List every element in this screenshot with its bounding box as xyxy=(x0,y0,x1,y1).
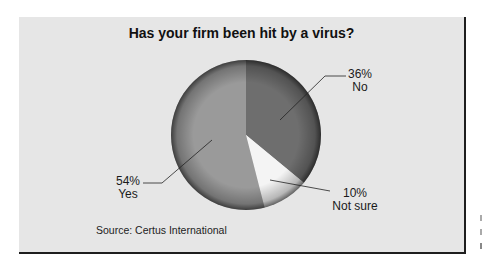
edge-artifact xyxy=(480,215,482,251)
label-notsure: 10% Not sure xyxy=(330,187,380,213)
label-no: 36% No xyxy=(340,68,380,94)
chart-source: Source: Certus International xyxy=(96,224,227,236)
label-no-name: No xyxy=(340,81,380,94)
label-notsure-name: Not sure xyxy=(330,200,380,213)
pie-chart xyxy=(0,0,484,269)
label-yes-name: Yes xyxy=(108,188,148,201)
pie-edge-shading xyxy=(171,60,321,210)
label-yes: 54% Yes xyxy=(108,175,148,201)
